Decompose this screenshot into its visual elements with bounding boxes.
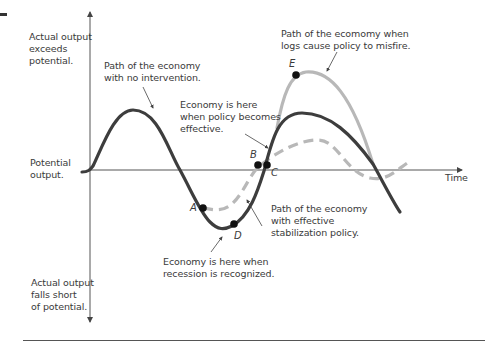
no-intervention-annotation: Path of the economy with no intervention… — [104, 60, 201, 84]
effective-policy-arrow — [247, 200, 262, 226]
point-e-dot — [292, 71, 300, 79]
x-axis-label: Time — [445, 172, 468, 184]
misfire-annotation: Path of the ecomomy when logs cause poli… — [281, 28, 410, 52]
effective-policy-annotation: Path of the economy with effective stabi… — [271, 203, 367, 239]
point-d-label: D — [234, 230, 242, 241]
point-d-dot — [230, 220, 238, 228]
point-a-dot — [199, 204, 207, 212]
policy-effective-arrow — [245, 134, 268, 148]
bottom-rule — [23, 340, 485, 341]
recession-recognized-annotation: Economy is here when recession is recogn… — [163, 256, 274, 280]
y-middle-label: Potential output. — [30, 157, 71, 181]
point-b-label: B — [250, 149, 257, 160]
point-a-label: A — [190, 202, 197, 213]
no-intervention-arrow — [143, 87, 153, 108]
point-c-label: C — [271, 167, 278, 178]
recession-arrow — [211, 237, 222, 252]
y-bottom-label: Actual output falls short of potential. — [31, 277, 94, 313]
policy-effective-annotation: Economy is here when policy becomes effe… — [180, 99, 281, 135]
point-b-dot — [254, 161, 262, 169]
misfire-arrow — [327, 52, 337, 71]
y-top-label: Actual output exceeds potential. — [29, 31, 92, 67]
point-e-label: E — [289, 58, 295, 69]
point-c-dot — [263, 161, 271, 169]
